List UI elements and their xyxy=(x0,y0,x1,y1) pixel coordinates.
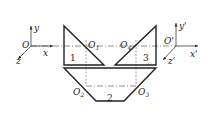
region-label-1: 1 xyxy=(70,53,76,63)
origin-label-o-prime: O' xyxy=(164,36,174,46)
axis-label-z-prime: z' xyxy=(167,56,175,66)
region-label-2: 2 xyxy=(107,93,113,103)
point-label-o2: O2 xyxy=(73,87,84,98)
axis-label-x: x xyxy=(43,48,48,58)
point-label-o3: O3 xyxy=(138,87,149,98)
left-coordinate-frame: O y x z xyxy=(15,23,53,66)
point-label-o4: O4 xyxy=(120,40,131,51)
axis-label-x-prime: x' xyxy=(190,49,198,59)
axis-label-z: z xyxy=(15,56,21,66)
region-label-3: 3 xyxy=(143,53,149,63)
point-label-o1: O1 xyxy=(88,40,99,51)
projection-diagram: O y x z O' y' x' z' O1 O4 O2 O3 1 2 3 xyxy=(0,0,210,113)
right-coordinate-frame: O' y' x' z' xyxy=(163,21,198,66)
origin-label-o: O xyxy=(22,40,30,50)
axis-label-y-prime: y' xyxy=(178,21,187,31)
axis-label-y: y xyxy=(33,23,40,33)
